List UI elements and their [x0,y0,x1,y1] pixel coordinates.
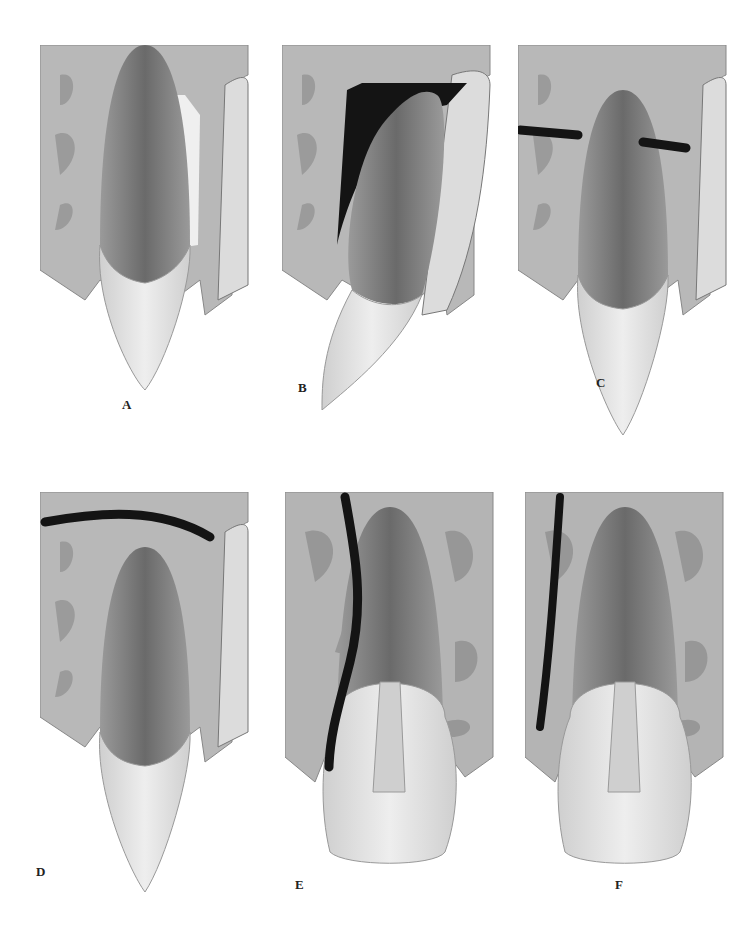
panel-label: B [298,380,307,396]
panel-d: D [40,492,250,902]
panel-label: F [615,877,623,893]
panel-c: C [518,45,728,445]
panel-label: A [122,397,131,413]
tooth-illustration-e [285,492,495,902]
tooth-illustration-c [518,45,728,445]
tooth-illustration-a [40,45,250,405]
tooth-illustration-d [40,492,250,902]
panel-f: F [525,492,735,902]
panel-label: C [596,375,605,391]
panel-a: A [40,45,250,405]
tooth-illustration-b [282,45,492,410]
panel-label: D [36,864,45,880]
panel-e: E [285,492,495,902]
tooth-illustration-f [525,492,735,902]
panel-b: B [282,45,492,410]
panel-label: E [295,877,304,893]
